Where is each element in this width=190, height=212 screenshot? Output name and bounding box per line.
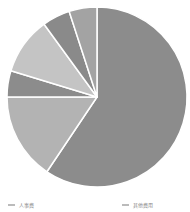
pie-chart: [0, 0, 190, 195]
legend-label: 人事费: [19, 201, 34, 208]
legend-label: 其他费用: [133, 201, 153, 208]
legend-marker-icon: [8, 204, 15, 206]
legend-entry[interactable]: 其他费用: [122, 201, 153, 208]
legend-marker-icon: [122, 204, 129, 206]
chart-legend: 人事费 其他费用: [0, 201, 190, 211]
legend-entry[interactable]: 人事费: [8, 201, 34, 208]
